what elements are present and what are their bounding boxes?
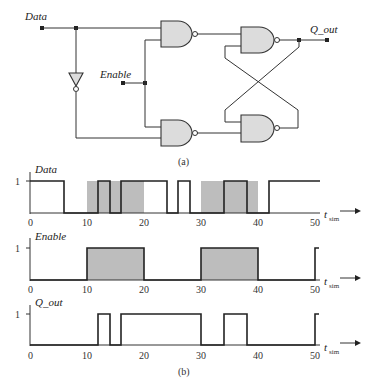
q-out-wave-label: Q_out: [35, 296, 63, 308]
svg-text:20: 20: [139, 284, 149, 295]
caption-a: (a): [178, 156, 189, 168]
waveform-q-out: 1 Q_out 0 10 20 30 40 50 t sim (b): [15, 296, 361, 378]
svg-text:40: 40: [253, 350, 263, 361]
svg-text:10: 10: [82, 350, 92, 361]
svg-text:50: 50: [310, 217, 320, 228]
svg-text:10: 10: [82, 284, 92, 295]
svg-text:30: 30: [196, 350, 206, 361]
data-label: Data: [24, 10, 48, 22]
svg-text:0: 0: [28, 217, 33, 228]
nand-gate-1-icon: [161, 21, 192, 47]
svg-text:sim: sim: [329, 282, 340, 290]
enable-label: Enable: [99, 68, 131, 80]
svg-text:1: 1: [15, 243, 20, 254]
svg-text:50: 50: [310, 350, 320, 361]
circuit: Data Enable Q_out: [24, 10, 338, 168]
svg-text:50: 50: [310, 284, 320, 295]
waveform-data: 1 Data 0 10 20 30 40 50 t sim: [15, 163, 361, 228]
svg-text:1: 1: [15, 176, 20, 187]
caption-b: (b): [178, 366, 190, 378]
svg-text:30: 30: [196, 284, 206, 295]
svg-text:20: 20: [139, 350, 149, 361]
data-wave-label: Data: [34, 163, 58, 175]
svg-text:t: t: [324, 208, 328, 220]
svg-text:0: 0: [28, 284, 33, 295]
svg-text:t: t: [324, 275, 328, 287]
nand-gate-4-icon: [241, 115, 274, 142]
svg-text:t: t: [324, 341, 328, 353]
svg-text:40: 40: [253, 217, 263, 228]
waveform-enable: 1 Enable 0 10 20 30 40 50 t sim: [15, 230, 361, 295]
nand-gate-3-icon: [161, 120, 192, 146]
svg-text:sim: sim: [329, 348, 340, 356]
svg-text:sim: sim: [329, 215, 340, 223]
q-out-label: Q_out: [310, 23, 338, 35]
svg-text:20: 20: [139, 217, 149, 228]
svg-text:40: 40: [253, 284, 263, 295]
diagram-canvas: Data Enable Q_out: [0, 0, 365, 390]
svg-text:10: 10: [82, 217, 92, 228]
inverter-icon: [69, 73, 83, 86]
svg-text:30: 30: [196, 217, 206, 228]
nand-gate-2-icon: [241, 27, 274, 53]
enable-wave-label: Enable: [34, 230, 66, 242]
svg-text:0: 0: [28, 350, 33, 361]
svg-text:1: 1: [15, 309, 20, 320]
